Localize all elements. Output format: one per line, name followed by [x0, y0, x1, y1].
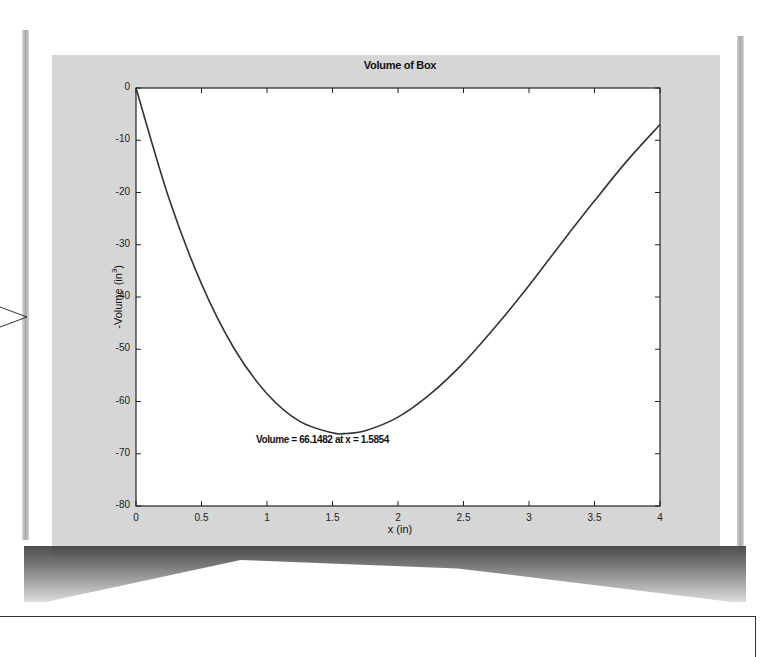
caption-box	[0, 616, 756, 657]
y-tick-label: -10	[102, 133, 130, 144]
y-tick-label: -40	[102, 290, 130, 301]
y-tick-label: -50	[102, 342, 130, 353]
x-tick-label: 4	[650, 512, 670, 523]
x-tick-label: 0	[126, 512, 146, 523]
y-tick-label: -80	[102, 499, 130, 510]
x-tick-label: 2.5	[454, 512, 474, 523]
y-tick-label: 0	[102, 81, 130, 92]
x-axis-label: x (in)	[370, 523, 430, 535]
x-tick-label: 3	[519, 512, 539, 523]
y-axis-label-close: )	[112, 265, 124, 269]
chart-title: Volume of Box	[336, 59, 464, 71]
x-tick-label: 1	[257, 512, 277, 523]
x-tick-label: 3.5	[585, 512, 605, 523]
x-tick-label: 1.5	[323, 512, 343, 523]
y-tick-label: -20	[102, 186, 130, 197]
y-tick-label: -60	[102, 395, 130, 406]
plot-frame	[136, 88, 660, 506]
x-tick-label: 0.5	[192, 512, 212, 523]
minimum-annotation: Volume = 66.1482 at x = 1.5854	[256, 434, 389, 445]
y-tick-label: -70	[102, 447, 130, 458]
x-tick-label: 2	[388, 512, 408, 523]
y-tick-label: -30	[102, 238, 130, 249]
y-axis-label-exponent: 3	[110, 269, 119, 273]
